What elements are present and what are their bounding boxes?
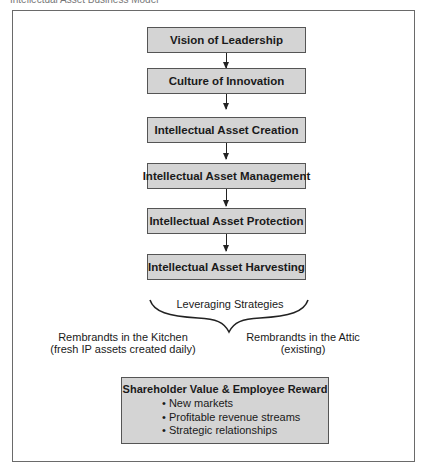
kitchen-line2: (fresh IP assets created daily)	[38, 343, 208, 355]
bullet-item: Strategic relationships	[162, 424, 300, 438]
result-bullet-list: New markets Profitable revenue streams S…	[162, 397, 300, 438]
rembrandts-attic-label: Rembrandts in the Attic (existing)	[238, 331, 368, 355]
bullet-item: Profitable revenue streams	[162, 411, 300, 425]
step-ia-harvesting: Intellectual Asset Harvesting	[147, 254, 306, 280]
step-ia-management: Intellectual Asset Management	[147, 163, 306, 189]
arrow-down-icon	[226, 94, 227, 109]
bullet-item: New markets	[162, 397, 300, 411]
step-label: Intellectual Asset Harvesting	[148, 261, 305, 273]
step-ia-creation: Intellectual Asset Creation	[147, 117, 306, 143]
arrow-down-icon	[226, 143, 227, 159]
step-label: Vision of Leadership	[170, 34, 283, 46]
step-label: Culture of Innovation	[169, 75, 285, 87]
arrow-down-icon	[226, 189, 227, 206]
arrow-down-icon	[226, 53, 227, 68]
step-label: Intellectual Asset Creation	[154, 124, 298, 136]
page-header-clipped: Intellectual Asset Business Model	[10, 0, 158, 5]
attic-line2: (existing)	[238, 343, 368, 355]
step-culture-of-innovation: Culture of Innovation	[147, 68, 306, 94]
step-vision-of-leadership: Vision of Leadership	[147, 27, 306, 53]
kitchen-line1: Rembrandts in the Kitchen	[38, 331, 208, 343]
shareholder-value-box: Shareholder Value & Employee Reward New …	[121, 377, 329, 444]
step-ia-protection: Intellectual Asset Protection	[147, 208, 306, 234]
leveraging-strategies-title: Leveraging Strategies	[150, 298, 310, 310]
rembrandts-kitchen-label: Rembrandts in the Kitchen (fresh IP asse…	[38, 331, 208, 355]
attic-line1: Rembrandts in the Attic	[238, 331, 368, 343]
arrow-down-icon	[226, 234, 227, 251]
result-title: Shareholder Value & Employee Reward	[122, 383, 328, 395]
step-label: Intellectual Asset Protection	[149, 215, 303, 227]
step-label: Intellectual Asset Management	[143, 170, 311, 182]
